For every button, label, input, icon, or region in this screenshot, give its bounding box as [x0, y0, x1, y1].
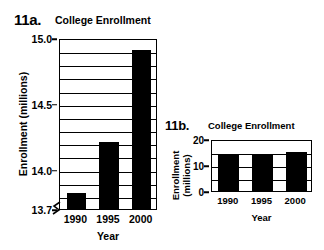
y-tick-label: 13.7: [32, 204, 52, 216]
chart-panel-11a: 11a. College Enrollment Enrollment (mill…: [0, 0, 175, 250]
bar-1990: [67, 193, 87, 209]
y-tick-mark: [52, 104, 57, 106]
bar-2000: [286, 152, 307, 191]
panel-label-11a: 11a.: [14, 11, 41, 28]
plot-area-11b: [211, 140, 312, 192]
y-tick-mark: [52, 170, 57, 172]
y-tick-label: 10: [193, 161, 204, 172]
x-tick-label-1990: 1990: [64, 213, 87, 225]
y-tick-mark: [204, 191, 209, 193]
y-tick-label: 20: [193, 135, 204, 146]
chart-title-11a: College Enrollment: [55, 14, 151, 26]
y-tick-mark: [204, 139, 209, 141]
y-tick-mark: [204, 165, 209, 167]
x-axis-title-11a: Year: [59, 230, 157, 242]
chart-panel-11b: 11b. College Enrollment Enrollment (mill…: [160, 113, 324, 250]
panel-label-11b: 11b.: [165, 118, 189, 133]
y-tick-label: 15.0: [32, 33, 52, 45]
bar-1995: [99, 142, 119, 209]
y-tick-label: 14.5: [32, 99, 52, 111]
chart-title-11b: College Enrollment: [208, 120, 295, 131]
y-tick-label: 14.0: [32, 165, 52, 177]
plot-area-11a: [59, 39, 157, 210]
x-axis-labels-11b: 199019952000: [211, 195, 312, 208]
y-axis-ticks-11b: 01020: [160, 140, 209, 192]
x-tick-label-2000: 2000: [129, 213, 152, 225]
y-axis-ticks-11a: 13.714.014.515.0: [0, 39, 57, 210]
x-tick-label-2000: 2000: [285, 195, 306, 206]
bar-1995: [252, 154, 273, 191]
x-tick-label-1995: 1995: [96, 213, 119, 225]
x-axis-title-11b: Year: [211, 212, 312, 223]
bar-2000: [132, 50, 152, 209]
bar-1990: [218, 155, 239, 191]
y-tick-mark: [52, 38, 57, 40]
x-tick-label-1995: 1995: [251, 195, 272, 206]
x-axis-labels-11a: 199019952000: [59, 213, 157, 227]
x-tick-label-1990: 1990: [217, 195, 238, 206]
